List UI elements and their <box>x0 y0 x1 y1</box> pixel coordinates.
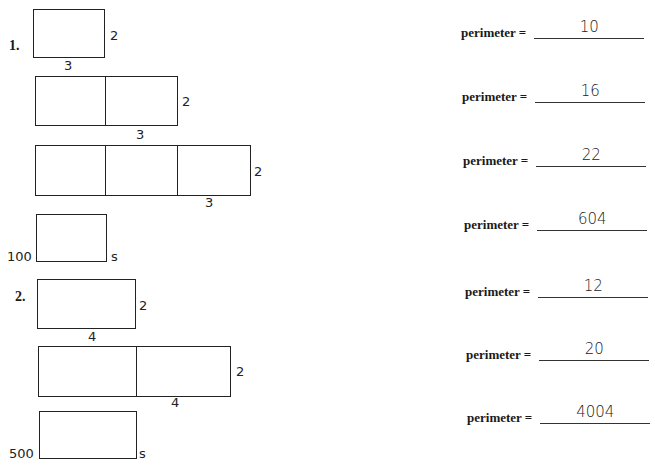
rectangle-1b <box>35 76 178 126</box>
side-label-1a: 2 <box>110 28 118 43</box>
perimeter-answer-2b: perimeter = 20 <box>466 342 649 361</box>
bottom-label-2a: 4 <box>88 329 96 344</box>
side-label-1d: s <box>111 249 118 264</box>
left-label-2c: 500 <box>9 446 34 461</box>
left-label-1d: 100 <box>7 249 32 264</box>
perimeter-label: perimeter = <box>462 90 527 103</box>
cell-divider <box>177 146 178 195</box>
cell-divider <box>136 347 137 396</box>
answer-value: 604 <box>537 210 647 228</box>
answer-value: 16 <box>535 82 645 100</box>
answer-value: 12 <box>538 277 648 295</box>
cell-divider <box>105 146 106 195</box>
side-label-2a: 2 <box>139 298 147 313</box>
perimeter-answer-1c: perimeter = 22 <box>463 148 646 167</box>
problem-number-1: 1. <box>9 38 20 54</box>
perimeter-answer-1a: perimeter = 10 <box>461 20 644 39</box>
side-label-2c: s <box>139 446 146 461</box>
bottom-label-2b: 4 <box>171 395 179 410</box>
bottom-label-1a: 3 <box>64 58 72 73</box>
rectangle-1d <box>36 214 107 262</box>
perimeter-answer-1d: perimeter = 604 <box>464 212 647 231</box>
answer-value: 4004 <box>540 403 650 421</box>
answer-line[interactable]: 12 <box>538 279 648 298</box>
rectangle-2c <box>39 411 137 459</box>
answer-value: 10 <box>534 18 644 36</box>
rectangle-1a <box>33 9 105 58</box>
side-label-2b: 2 <box>236 364 244 379</box>
perimeter-label: perimeter = <box>467 411 532 424</box>
perimeter-label: perimeter = <box>466 348 531 361</box>
cell-divider <box>105 77 106 125</box>
answer-value: 22 <box>536 146 646 164</box>
rectangle-2b <box>38 346 231 397</box>
side-label-1b: 2 <box>182 94 190 109</box>
perimeter-answer-1b: perimeter = 16 <box>462 84 645 103</box>
perimeter-answer-2a: perimeter = 12 <box>465 279 648 298</box>
answer-line[interactable]: 4004 <box>540 405 650 424</box>
answer-line[interactable]: 20 <box>539 342 649 361</box>
answer-line[interactable]: 10 <box>534 20 644 39</box>
side-label-1c: 2 <box>254 164 262 179</box>
perimeter-label: perimeter = <box>463 154 528 167</box>
perimeter-label: perimeter = <box>464 218 529 231</box>
perimeter-label: perimeter = <box>465 285 530 298</box>
answer-line[interactable]: 604 <box>537 212 647 231</box>
answer-line[interactable]: 16 <box>535 84 645 103</box>
answer-line[interactable]: 22 <box>536 148 646 167</box>
problem-number-2: 2. <box>15 289 26 305</box>
perimeter-label: perimeter = <box>461 26 526 39</box>
rectangle-2a <box>37 279 136 329</box>
rectangle-1c <box>35 145 251 196</box>
bottom-label-1c: 3 <box>205 195 213 210</box>
perimeter-answer-2c: perimeter = 4004 <box>467 405 650 424</box>
bottom-label-1b: 3 <box>136 127 144 142</box>
answer-value: 20 <box>539 340 649 358</box>
